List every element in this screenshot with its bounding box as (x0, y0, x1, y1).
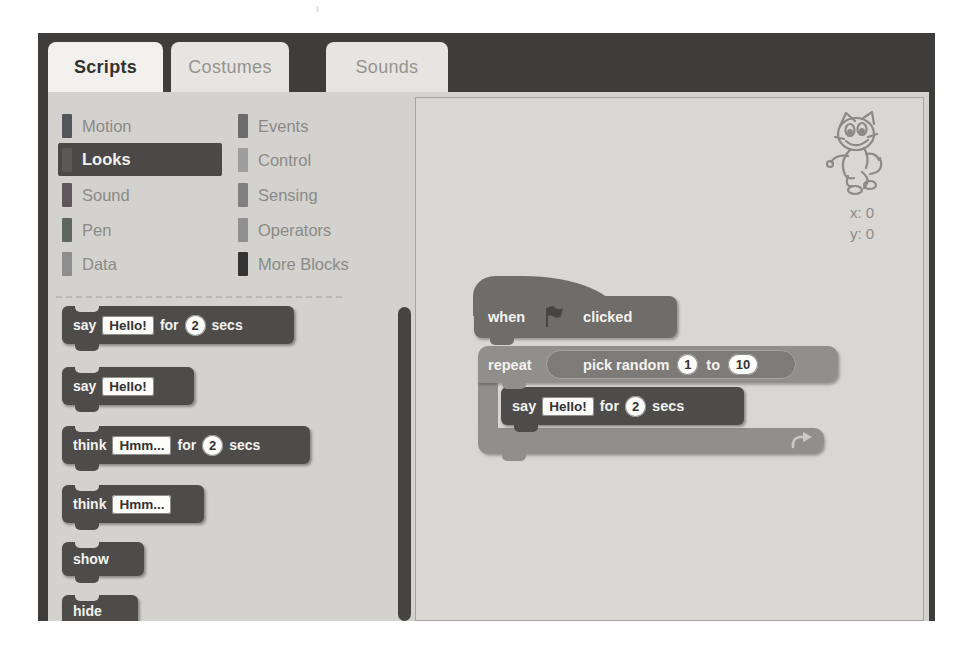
category-sound-label: Sound (82, 186, 130, 205)
category-control-label: Control (258, 151, 311, 170)
green-flag-icon (543, 306, 565, 328)
page-print-artifact (316, 6, 319, 12)
palette-block-show[interactable]: show (62, 542, 144, 576)
block-word: for (600, 398, 619, 414)
palette-block-say-for-secs[interactable]: say Hello! for 2 secs (62, 306, 294, 344)
block-word: hide (73, 603, 102, 619)
motion-swatch-icon (62, 114, 72, 138)
block-word: say (73, 317, 96, 333)
sprite-thumbnail-cat-icon (824, 110, 888, 202)
category-events[interactable]: Events (238, 112, 308, 140)
scripts-canvas[interactable]: x: 0 y: 0 when clicked repeat pick rand (415, 97, 924, 621)
category-more-blocks[interactable]: More Blocks (238, 250, 349, 278)
category-motion[interactable]: Motion (62, 112, 132, 140)
category-control[interactable]: Control (238, 146, 311, 174)
category-data-label: Data (82, 255, 117, 274)
loop-arrow-icon (790, 432, 814, 449)
text-input[interactable]: Hello! (542, 397, 594, 416)
script-block-say-for-secs[interactable]: say Hello! for 2 secs (501, 387, 744, 425)
block-word: when (488, 309, 525, 325)
block-palette: Motion Looks Sound Pen Data Events (48, 92, 415, 621)
block-word: to (706, 357, 720, 373)
scratch-window: Scripts Costumes Sounds Motion Looks Sou… (38, 33, 935, 621)
number-input[interactable]: 2 (202, 435, 223, 456)
block-word: secs (212, 317, 243, 333)
block-word: secs (229, 437, 260, 453)
block-word: secs (652, 398, 684, 414)
operators-swatch-icon (238, 218, 248, 242)
palette-block-think[interactable]: think Hmm... (62, 485, 204, 523)
script-block-when-flag-clicked[interactable]: when clicked (474, 296, 677, 338)
block-word: repeat (488, 357, 532, 373)
category-motion-label: Motion (82, 117, 132, 136)
sprite-x-value: x: 0 (850, 202, 874, 223)
looks-swatch-icon (62, 148, 72, 172)
more-blocks-swatch-icon (238, 252, 248, 276)
tab-scripts[interactable]: Scripts (48, 42, 163, 92)
block-word: say (73, 378, 96, 394)
block-word: for (177, 437, 196, 453)
block-word: clicked (583, 309, 632, 325)
palette-block-hide[interactable]: hide (62, 595, 138, 621)
text-input[interactable]: Hmm... (112, 436, 171, 455)
control-swatch-icon (238, 148, 248, 172)
script-block-repeat[interactable]: repeat pick random 1 to 10 (478, 346, 838, 383)
sensing-swatch-icon (238, 183, 248, 207)
block-word: show (73, 551, 109, 567)
block-word: think (73, 437, 106, 453)
text-input[interactable]: Hmm... (112, 495, 171, 514)
content-area: Motion Looks Sound Pen Data Events (48, 92, 929, 621)
palette-block-think-for-secs[interactable]: think Hmm... for 2 secs (62, 426, 310, 464)
text-input[interactable]: Hello! (102, 377, 154, 396)
repeat-block-left-arm (478, 382, 498, 429)
category-operators[interactable]: Operators (238, 216, 331, 244)
events-swatch-icon (238, 114, 248, 138)
page: { "window": { "tabs": [ {"label": "Scrip… (0, 0, 964, 651)
palette-block-say[interactable]: say Hello! (62, 367, 194, 405)
category-sensing[interactable]: Sensing (238, 181, 318, 209)
tab-costumes[interactable]: Costumes (171, 42, 289, 92)
block-word: pick random (583, 357, 669, 373)
category-pen-label: Pen (82, 221, 111, 240)
block-word: for (160, 317, 179, 333)
category-events-label: Events (258, 117, 308, 136)
block-word: say (512, 398, 536, 414)
tab-scripts-label: Scripts (74, 57, 137, 78)
block-word: think (73, 496, 106, 512)
data-swatch-icon (62, 252, 72, 276)
category-looks-label: Looks (82, 150, 131, 169)
sprite-position-readout: x: 0 y: 0 (850, 202, 874, 244)
category-sound[interactable]: Sound (62, 181, 130, 209)
tab-sounds[interactable]: Sounds (326, 42, 448, 92)
sound-swatch-icon (62, 183, 72, 207)
category-sensing-label: Sensing (258, 186, 318, 205)
number-input[interactable]: 1 (677, 354, 698, 375)
palette-scrollbar[interactable] (398, 307, 411, 621)
palette-divider (56, 296, 342, 298)
category-more-blocks-label: More Blocks (258, 255, 349, 274)
category-pen[interactable]: Pen (62, 216, 111, 244)
category-data[interactable]: Data (62, 250, 117, 278)
tab-sounds-label: Sounds (356, 57, 419, 78)
category-operators-label: Operators (258, 221, 331, 240)
category-looks[interactable]: Looks (58, 143, 222, 176)
number-input[interactable]: 2 (625, 396, 646, 417)
tab-costumes-label: Costumes (188, 57, 271, 78)
pen-swatch-icon (62, 218, 72, 242)
text-input[interactable]: Hello! (102, 316, 154, 335)
script-block-pick-random[interactable]: pick random 1 to 10 (546, 350, 796, 379)
number-input[interactable]: 2 (185, 315, 206, 336)
number-input[interactable]: 10 (728, 354, 758, 375)
sprite-y-value: y: 0 (850, 223, 874, 244)
